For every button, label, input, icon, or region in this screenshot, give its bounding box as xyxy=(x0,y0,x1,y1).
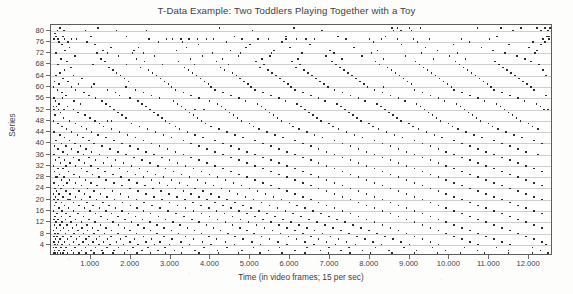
data-point xyxy=(260,244,262,246)
data-point xyxy=(294,154,296,156)
data-point xyxy=(320,213,322,215)
data-point xyxy=(306,131,308,133)
data-point xyxy=(358,202,360,204)
data-point xyxy=(120,75,122,77)
data-point xyxy=(204,81,206,83)
data-point xyxy=(414,140,416,142)
data-point xyxy=(382,199,384,201)
data-point xyxy=(61,216,63,218)
data-point xyxy=(477,244,479,246)
data-point xyxy=(268,38,270,40)
data-point xyxy=(62,196,64,198)
data-point xyxy=(320,250,322,252)
data-point xyxy=(409,27,411,29)
data-point xyxy=(104,233,106,235)
data-point xyxy=(430,95,432,97)
data-point xyxy=(262,168,264,170)
data-point xyxy=(459,64,461,66)
data-point xyxy=(57,233,59,235)
data-point xyxy=(316,117,318,119)
data-point xyxy=(360,227,362,229)
data-point xyxy=(485,207,487,209)
data-point xyxy=(61,179,63,181)
data-point xyxy=(452,126,454,128)
x-tick-label: 1.000 xyxy=(80,259,99,268)
data-point xyxy=(340,250,342,252)
data-point xyxy=(100,216,102,218)
data-point xyxy=(74,143,76,145)
data-point xyxy=(390,174,392,176)
data-point xyxy=(451,86,453,88)
data-point xyxy=(526,83,528,85)
data-point xyxy=(281,41,283,43)
data-point xyxy=(338,238,340,240)
y-tick-label: 12 xyxy=(36,217,44,226)
data-point xyxy=(66,61,68,63)
x-tick-mark xyxy=(329,255,330,259)
data-point xyxy=(250,207,252,209)
data-point xyxy=(342,143,344,145)
data-point xyxy=(93,233,95,235)
data-point xyxy=(53,241,55,243)
data-point xyxy=(149,221,151,223)
data-point xyxy=(341,58,343,60)
data-point xyxy=(253,233,255,235)
data-point xyxy=(61,202,63,204)
data-point xyxy=(395,72,397,74)
data-point xyxy=(248,221,250,223)
data-point xyxy=(60,162,62,164)
data-point xyxy=(78,190,80,192)
data-point xyxy=(55,36,57,38)
data-point xyxy=(129,241,131,243)
data-point xyxy=(299,64,301,66)
data-point xyxy=(60,58,62,60)
data-point xyxy=(310,185,312,187)
data-point xyxy=(537,154,539,156)
data-point xyxy=(465,131,467,133)
y-tick-label: 64 xyxy=(36,70,44,79)
y-tick-mark xyxy=(46,244,50,245)
data-point xyxy=(426,131,428,133)
plot-area[interactable] xyxy=(50,24,552,255)
data-point xyxy=(493,238,495,240)
data-point xyxy=(187,131,189,133)
data-point xyxy=(353,47,355,49)
data-point xyxy=(233,114,235,116)
data-point xyxy=(185,165,187,167)
data-point xyxy=(296,205,298,207)
data-point xyxy=(252,30,254,32)
gridline xyxy=(51,31,551,32)
data-point xyxy=(382,210,384,212)
data-point xyxy=(520,27,522,29)
data-point xyxy=(472,114,474,116)
data-point xyxy=(502,67,504,69)
data-point xyxy=(406,165,408,167)
data-point xyxy=(266,213,268,215)
data-point xyxy=(124,252,126,254)
data-point xyxy=(333,52,335,54)
data-point xyxy=(509,174,511,176)
data-point xyxy=(342,210,344,212)
data-point xyxy=(447,83,449,85)
data-point xyxy=(106,196,108,198)
data-point xyxy=(92,174,94,176)
data-point xyxy=(86,202,88,204)
data-point xyxy=(112,69,114,71)
data-point xyxy=(335,64,337,66)
data-point xyxy=(237,193,239,195)
data-point xyxy=(382,92,384,94)
data-point xyxy=(150,230,152,232)
data-point xyxy=(438,230,440,232)
data-point xyxy=(58,241,60,243)
x-tick-mark xyxy=(209,255,210,259)
y-tick-mark xyxy=(46,41,50,42)
data-point xyxy=(91,86,93,88)
data-point xyxy=(114,199,116,201)
data-point xyxy=(104,61,106,63)
data-point xyxy=(490,86,492,88)
data-point xyxy=(111,120,113,122)
data-point xyxy=(541,199,543,201)
data-point xyxy=(281,199,283,201)
data-point xyxy=(127,171,129,173)
data-point xyxy=(81,78,83,80)
